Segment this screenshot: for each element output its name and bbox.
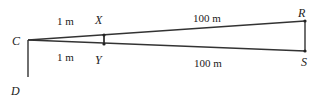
distance-label-cx: 1 m: [57, 15, 74, 27]
distance-label-ys: 100 m: [194, 57, 222, 69]
point-x-dot: [102, 33, 105, 36]
line-c-s: [28, 40, 305, 51]
point-y-dot: [102, 42, 105, 45]
point-label-d: D: [10, 84, 20, 98]
distance-label-cy: 1 m: [57, 51, 74, 63]
point-label-y: Y: [95, 53, 103, 67]
diagram-canvas: C D X Y R S 1 m 1 m 100 m 100 m: [0, 0, 319, 99]
point-label-s: S: [301, 55, 307, 69]
distance-label-xr: 100 m: [193, 12, 221, 24]
point-label-x: X: [94, 13, 103, 27]
point-label-c: C: [12, 34, 21, 48]
point-s-dot: [303, 49, 306, 52]
point-label-r: R: [297, 6, 306, 20]
